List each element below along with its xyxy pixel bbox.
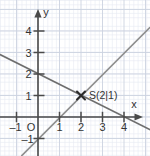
y-tick-label-neg1: –1 bbox=[21, 133, 33, 145]
coordinate-chart-svg: 4 3 2 1 –1 –1 O 1 2 3 4 y x S(2|1) bbox=[0, 0, 150, 156]
x-tick-label-4: 4 bbox=[121, 121, 127, 133]
x-tick-label-3: 3 bbox=[99, 121, 105, 133]
coordinate-plane-figure: 4 3 2 1 –1 –1 O 1 2 3 4 y x S(2|1) bbox=[0, 0, 150, 156]
x-tick-label-neg1: –1 bbox=[9, 121, 21, 133]
y-axis-label: y bbox=[43, 6, 49, 18]
y-tick-label-1: 1 bbox=[25, 90, 31, 102]
x-tick-label-1: 1 bbox=[56, 121, 62, 133]
y-tick-label-4: 4 bbox=[25, 25, 31, 37]
x-axis-label: x bbox=[131, 98, 137, 110]
y-tick-label-2: 2 bbox=[25, 68, 31, 80]
intersection-point-label: S(2|1) bbox=[89, 89, 117, 101]
x-axis-arrowhead bbox=[135, 113, 144, 120]
x-tick-label-2: 2 bbox=[78, 121, 84, 133]
y-tick-label-3: 3 bbox=[25, 47, 31, 59]
origin-label: O bbox=[27, 121, 36, 133]
falling-line bbox=[0, 55, 150, 130]
